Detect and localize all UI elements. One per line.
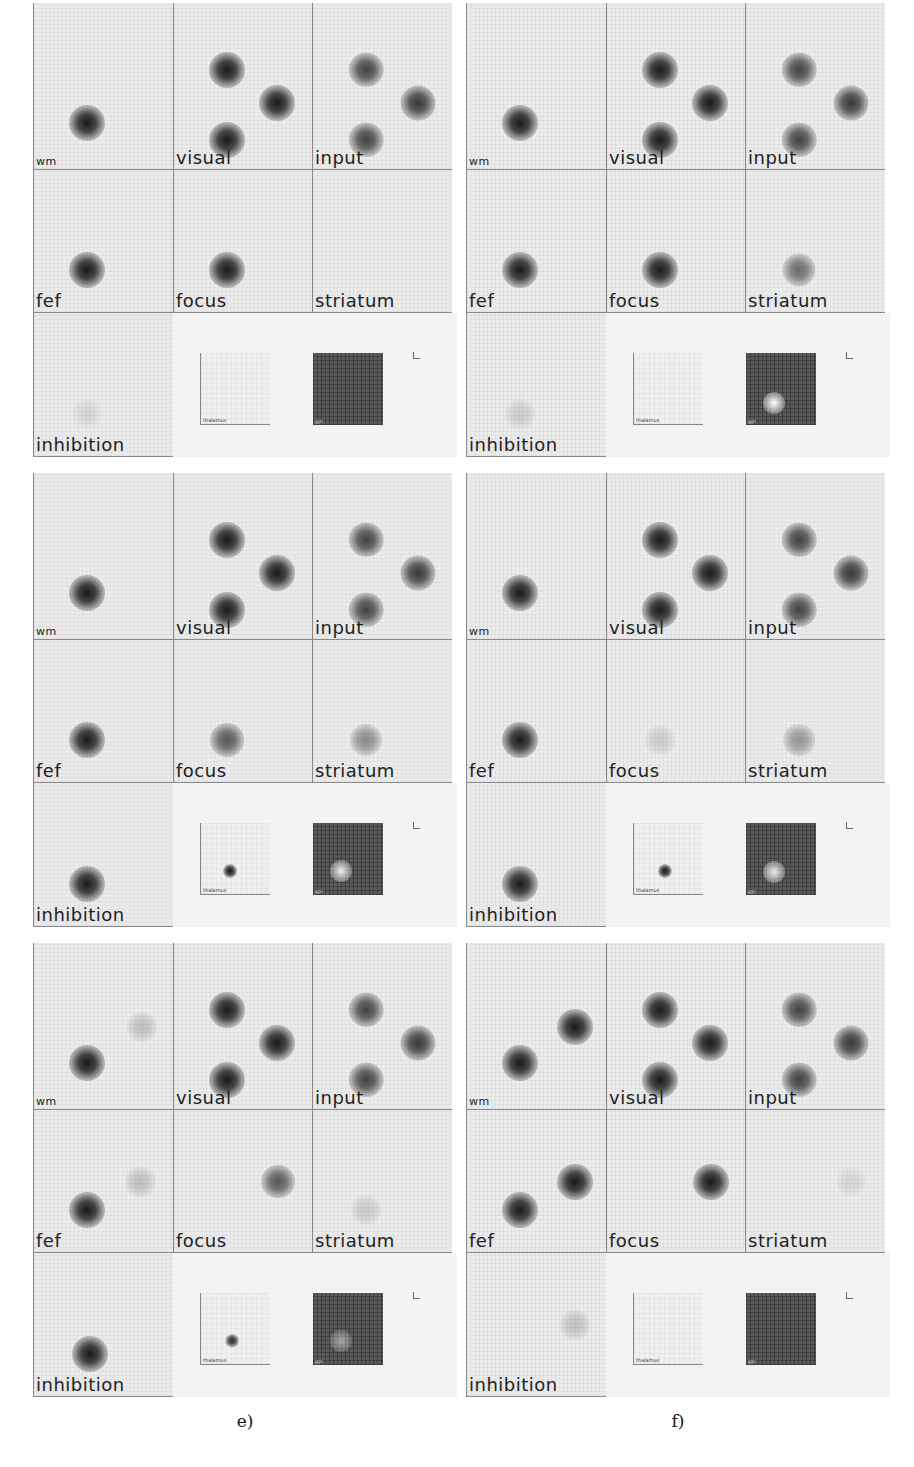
gpi-plot: gpi bbox=[746, 353, 816, 425]
heatmap-label: input bbox=[315, 617, 364, 638]
heatmap-label: inhibition bbox=[36, 434, 125, 455]
heatmap-label: striatum bbox=[315, 760, 395, 781]
heatmap-label: inhibition bbox=[36, 1374, 125, 1395]
activation-blob bbox=[69, 575, 105, 611]
heatmap-inhibition: inhibition bbox=[33, 1253, 173, 1397]
heatmap-label: striatum bbox=[748, 1230, 828, 1251]
activation-blob bbox=[209, 992, 245, 1028]
heatmap-label: wm bbox=[469, 625, 490, 638]
panel-d: wmvisualinputfeffocusstriatuminhibitiont… bbox=[466, 473, 890, 931]
heatmap-label: focus bbox=[609, 290, 660, 311]
gpi-plot: gpi bbox=[746, 1293, 816, 1365]
activation-blob bbox=[645, 725, 675, 755]
thalamus-plot: thalamus bbox=[200, 1293, 270, 1365]
heatmap-visual: visual bbox=[606, 473, 745, 640]
heatmap-input: input bbox=[745, 473, 885, 640]
activation-blob bbox=[783, 724, 815, 756]
panel-caption: f) bbox=[466, 1411, 890, 1431]
activation-blob bbox=[69, 866, 105, 902]
activation-blob bbox=[349, 993, 384, 1028]
heatmap-striatum: striatum bbox=[312, 170, 452, 313]
gpi-hole bbox=[330, 860, 352, 882]
heatmap-label: fef bbox=[36, 760, 61, 781]
heatmap-wm: wm bbox=[33, 943, 173, 1110]
heatmap-label: visual bbox=[176, 617, 231, 638]
activation-blob bbox=[209, 252, 245, 288]
heatmap-input: input bbox=[312, 943, 452, 1110]
activation-blob bbox=[259, 1025, 295, 1061]
activation-blob bbox=[69, 252, 105, 288]
heatmap-focus: focus bbox=[606, 170, 745, 313]
heatmap-inhibition: inhibition bbox=[33, 783, 173, 927]
heatmap-label: visual bbox=[176, 1087, 231, 1108]
heatmap-visual: visual bbox=[173, 3, 312, 170]
activation-blob bbox=[642, 992, 678, 1028]
corner-marker-icon bbox=[413, 352, 420, 359]
heatmap-label: wm bbox=[36, 155, 57, 168]
activation-blob bbox=[834, 1026, 869, 1061]
heatmap-label: fef bbox=[469, 1230, 494, 1251]
gpi-plot: gpi bbox=[746, 823, 816, 895]
thalamus-plot: thalamus bbox=[633, 353, 703, 425]
thalamus-plot: thalamus bbox=[200, 823, 270, 895]
activation-blob bbox=[259, 85, 295, 121]
activation-blob bbox=[782, 523, 817, 558]
activation-blob bbox=[834, 556, 869, 591]
heatmap-input: input bbox=[745, 3, 885, 170]
activation-blob bbox=[261, 1165, 295, 1199]
heatmap-label: visual bbox=[609, 147, 664, 168]
panel-c: wmvisualinputfeffocusstriatuminhibitiont… bbox=[33, 473, 457, 931]
heatmap-label: wm bbox=[36, 625, 57, 638]
heatmap-label: inhibition bbox=[469, 904, 558, 925]
heatmap-wm: wm bbox=[33, 3, 173, 170]
heatmap-label: input bbox=[748, 147, 797, 168]
gpi-label: gpi bbox=[748, 1358, 756, 1364]
heatmap-focus: focus bbox=[173, 1110, 312, 1253]
heatmap-label: fef bbox=[36, 290, 61, 311]
heatmap-inhibition: inhibition bbox=[33, 313, 173, 457]
heatmap-fef: fef bbox=[466, 170, 606, 313]
activation-blob bbox=[209, 522, 245, 558]
activation-blob bbox=[502, 722, 538, 758]
activation-blob bbox=[69, 105, 105, 141]
heatmap-fef: fef bbox=[33, 170, 173, 313]
corner-marker-icon bbox=[846, 1292, 853, 1299]
activation-blob bbox=[69, 1192, 105, 1228]
activation-blob bbox=[692, 1025, 728, 1061]
heatmap-input: input bbox=[745, 943, 885, 1110]
activation-blob bbox=[502, 1045, 538, 1081]
activation-blob bbox=[127, 1011, 157, 1041]
heatmap-focus: focus bbox=[173, 640, 312, 783]
thalamus-label: thalamus bbox=[203, 887, 226, 893]
panel-f: wmvisualinputfeffocusstriatuminhibitiont… bbox=[466, 943, 890, 1401]
heatmap-inhibition: inhibition bbox=[466, 1253, 606, 1397]
activation-blob bbox=[72, 1336, 108, 1372]
corner-marker-icon bbox=[846, 822, 853, 829]
heatmap-fef: fef bbox=[466, 640, 606, 783]
heatmap-label: inhibition bbox=[36, 904, 125, 925]
heatmap-visual: visual bbox=[606, 3, 745, 170]
heatmap-label: fef bbox=[36, 1230, 61, 1251]
heatmap-focus: focus bbox=[606, 1110, 745, 1253]
heatmap-label: wm bbox=[36, 1095, 57, 1108]
corner-marker-icon bbox=[413, 1292, 420, 1299]
heatmap-inhibition: inhibition bbox=[466, 783, 606, 927]
heatmap-label: focus bbox=[176, 1230, 227, 1251]
heatmap-striatum: striatum bbox=[745, 170, 885, 313]
activation-blob bbox=[693, 1164, 729, 1200]
activation-blob bbox=[502, 866, 538, 902]
heatmap-visual: visual bbox=[173, 943, 312, 1110]
heatmap-label: input bbox=[315, 1087, 364, 1108]
corner-marker-icon bbox=[846, 352, 853, 359]
activation-blob bbox=[642, 52, 678, 88]
activation-blob bbox=[783, 254, 816, 287]
heatmap-label: inhibition bbox=[469, 434, 558, 455]
activation-blob bbox=[502, 575, 538, 611]
activation-blob bbox=[834, 86, 869, 121]
heatmap-label: visual bbox=[176, 147, 231, 168]
panel-b: wmvisualinputfeffocusstriatuminhibitiont… bbox=[466, 3, 890, 461]
thalamus-plot: thalamus bbox=[200, 353, 270, 425]
activation-blob bbox=[557, 1164, 593, 1200]
heatmap-label: striatum bbox=[748, 760, 828, 781]
heatmap-label: input bbox=[748, 1087, 797, 1108]
